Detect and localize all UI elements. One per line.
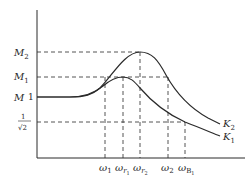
x-tick-wr2: ωr2 (133, 162, 148, 176)
curve-label-k1: K1 (222, 131, 235, 145)
y-tick-m2: M2 (13, 47, 29, 61)
curve-k2 (37, 52, 220, 124)
y-tick-inv-sqrt2-num: 1 (21, 113, 25, 121)
x-tick-w1: ω1 (99, 162, 112, 175)
frequency-response-diagram: M2 M1 M 1 1 √2 ω1 ωr1 ωr2 ω2 ωB1 K2 K1 (0, 0, 247, 184)
curve-label-k2: K2 (222, 118, 235, 132)
curve-k1 (37, 77, 220, 136)
x-tick-wb1: ωB1 (178, 162, 195, 176)
x-tick-w2: ω2 (161, 162, 174, 175)
y-tick-one: 1 (28, 92, 34, 102)
y-tick-inv-sqrt2-den: √2 (18, 124, 27, 132)
y-tick-m1: M1 (13, 71, 29, 85)
y-axis-label: M (13, 92, 25, 103)
x-tick-wr1: ωr1 (115, 162, 130, 176)
